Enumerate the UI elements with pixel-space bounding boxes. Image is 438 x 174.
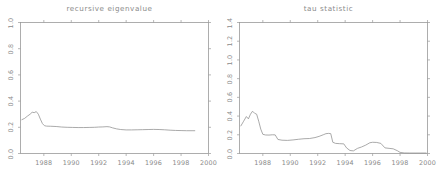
figure-container: recursive eigenvalue 1988199019921994199… (0, 0, 438, 174)
x-tick-label: 1992 (90, 159, 107, 167)
y-tick-label: 1.0 (7, 17, 15, 28)
y-tick-label: 0.6 (7, 70, 15, 81)
x-tick-label: 1998 (173, 159, 190, 167)
x-tick-label: 1994 (337, 159, 354, 167)
y-tick-label: 0.2 (7, 122, 15, 133)
x-tick-label: 1998 (392, 159, 409, 167)
x-tick-label: 1996 (145, 159, 162, 167)
x-tick-label: 1988 (35, 159, 52, 167)
y-tick-label: 1.2 (226, 36, 234, 47)
y-tick-label: 0.0 (226, 148, 234, 159)
y-tick-label: 0.8 (226, 73, 234, 84)
y-tick-label: 1.4 (226, 17, 234, 28)
series-line (22, 112, 195, 131)
x-tick-label: 1996 (364, 159, 381, 167)
y-tick-label: 0.4 (226, 111, 234, 122)
y-tick-label: 0.2 (226, 129, 234, 140)
y-tick-label: 0.4 (7, 96, 15, 107)
x-tick-label: 1990 (282, 159, 299, 167)
chart-panel-recursive-eigenvalue: recursive eigenvalue 1988199019921994199… (0, 0, 219, 174)
y-tick-label: 0.0 (7, 148, 15, 159)
x-tick-label: 2000 (419, 159, 436, 167)
plot-area-recursive-eigenvalue (0, 0, 219, 174)
x-tick-label: 2000 (200, 159, 217, 167)
x-tick-label: 1988 (254, 159, 271, 167)
series-line (241, 111, 426, 153)
plot-area-tau-statistic (219, 0, 438, 174)
y-tick-label: 0.8 (7, 43, 15, 54)
x-tick-label: 1994 (118, 159, 135, 167)
y-tick-label: 1.0 (226, 55, 234, 66)
x-tick-label: 1990 (63, 159, 80, 167)
x-tick-label: 1992 (309, 159, 326, 167)
chart-panel-tau-statistic: tau statistic 19881990199219941996199820… (219, 0, 438, 174)
y-tick-label: 0.6 (226, 92, 234, 103)
